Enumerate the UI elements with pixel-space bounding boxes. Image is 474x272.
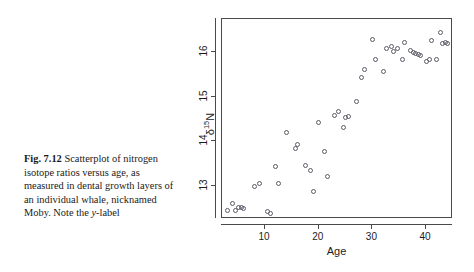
- data-point: [311, 189, 316, 194]
- x-tick-label: 20: [312, 231, 323, 242]
- figure-caption: Fig. 7.12 Scatterplot of nitrogen isotop…: [24, 152, 176, 220]
- data-point: [225, 208, 230, 213]
- data-point: [373, 57, 378, 62]
- x-axis-title: Age: [221, 245, 452, 257]
- x-axis-line: [221, 224, 452, 225]
- data-point: [438, 30, 443, 35]
- caption-text-part2: -label: [96, 207, 120, 218]
- data-point: [268, 211, 273, 216]
- data-point: [402, 40, 407, 45]
- data-point: [252, 184, 257, 189]
- data-point: [395, 46, 400, 51]
- delta-symbol: δ: [204, 129, 216, 135]
- data-point: [322, 149, 327, 154]
- data-point: [434, 57, 439, 62]
- data-point: [384, 46, 389, 51]
- data-point: [418, 53, 423, 58]
- data-point: [273, 164, 278, 169]
- data-point: [400, 57, 405, 62]
- x-tick-label: 10: [258, 231, 269, 242]
- data-point: [427, 57, 432, 62]
- figure-number: Fig. 7.12: [24, 153, 62, 164]
- data-point: [362, 67, 367, 72]
- element-symbol: N: [204, 113, 216, 121]
- data-point: [295, 142, 300, 147]
- data-point: [303, 163, 308, 168]
- data-point: [284, 130, 289, 135]
- data-point: [332, 113, 337, 118]
- x-tick: [371, 225, 372, 229]
- data-point: [293, 146, 298, 151]
- x-tick-label: 30: [366, 231, 377, 242]
- data-point: [354, 99, 359, 104]
- data-point: [230, 201, 235, 206]
- y-tick: [211, 51, 215, 52]
- data-point: [359, 75, 364, 80]
- data-point: [445, 41, 450, 46]
- y-tick-label: 16: [198, 44, 209, 58]
- y-tick: [211, 185, 215, 186]
- plot-panel: [221, 18, 452, 218]
- data-point: [429, 38, 434, 43]
- x-tick: [425, 225, 426, 229]
- data-point: [276, 181, 281, 186]
- x-tick: [264, 225, 265, 229]
- y-tick-label: 13: [198, 178, 209, 192]
- data-point: [241, 206, 246, 211]
- x-tick: [318, 225, 319, 229]
- data-point: [308, 168, 313, 173]
- isotope-superscript: 15: [202, 121, 211, 129]
- data-point: [336, 109, 341, 114]
- data-point: [370, 37, 375, 42]
- y-axis-title: δ15N: [204, 94, 216, 154]
- data-points-layer: [222, 19, 451, 217]
- x-tick-label: 40: [420, 231, 431, 242]
- data-point: [325, 174, 330, 179]
- data-point: [346, 114, 351, 119]
- data-point: [381, 69, 386, 74]
- data-point: [257, 181, 262, 186]
- data-point: [316, 120, 321, 125]
- data-point: [341, 125, 346, 130]
- scatterplot-figure: 10203040 13141516 Age δ15N: [190, 0, 474, 272]
